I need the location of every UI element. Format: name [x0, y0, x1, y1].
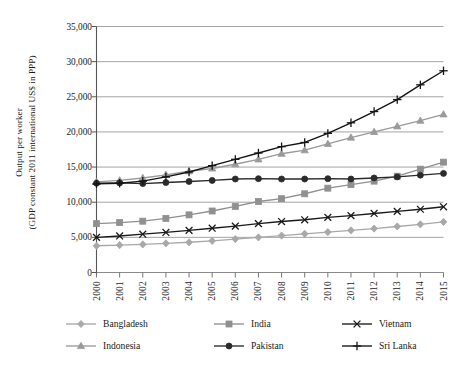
legend-item-bangladesh[interactable]: Bangladesh: [64, 316, 148, 332]
legend-key-square-icon: [212, 318, 246, 330]
marker-square: [140, 218, 146, 224]
series-vietnam: [93, 203, 447, 240]
marker-diamond: [417, 221, 424, 228]
marker-square: [325, 185, 331, 191]
marker-circle: [186, 178, 192, 184]
legend-label: Indonesia: [103, 340, 140, 352]
x-tick-label: 2015: [439, 281, 449, 301]
marker-square: [302, 191, 308, 197]
marker-diamond: [440, 218, 447, 225]
marker-circle: [348, 176, 354, 182]
x-tick-label: 2014: [415, 281, 425, 301]
marker-circle: [417, 172, 423, 178]
legend-key-diamond-icon: [64, 318, 98, 330]
series-line: [97, 173, 444, 183]
marker-circle: [302, 176, 308, 182]
chart-legend: BangladeshIndiaVietnamIndonesiaPakistanS…: [44, 316, 444, 362]
series-line: [97, 207, 444, 238]
marker-diamond: [78, 320, 85, 327]
marker-square: [186, 212, 192, 218]
marker-square: [226, 321, 232, 327]
marker-diamond: [324, 228, 331, 235]
legend-label: India: [251, 318, 271, 330]
marker-square: [163, 215, 169, 221]
marker-diamond: [348, 227, 355, 234]
x-tick-label: 2002: [138, 281, 148, 301]
marker-circle: [232, 176, 238, 182]
legend-label: Bangladesh: [103, 318, 148, 330]
x-tick-label: 2005: [207, 281, 217, 301]
legend-item-india[interactable]: India: [212, 316, 271, 332]
x-tick-label: 2001: [115, 281, 125, 301]
marker-diamond: [139, 241, 146, 248]
series-line: [97, 114, 444, 181]
marker-square: [348, 182, 354, 188]
marker-square: [117, 220, 123, 226]
x-tick-label: 2008: [277, 281, 287, 301]
marker-square: [94, 221, 100, 227]
x-tick-label: 2007: [253, 281, 263, 301]
marker-diamond: [116, 241, 123, 248]
marker-circle: [371, 175, 377, 181]
marker-diamond: [232, 236, 239, 243]
legend-key-plus-icon: [340, 340, 374, 352]
marker-circle: [226, 343, 232, 349]
marker-square: [279, 196, 285, 202]
marker-circle: [325, 176, 331, 182]
x-tick-label: 2003: [161, 281, 171, 301]
x-tick-label: 2013: [392, 281, 402, 301]
plot-area: [0, 0, 458, 367]
legend-label: Sri Lanka: [379, 340, 417, 352]
marker-square: [417, 166, 423, 172]
x-tick-label: 2010: [323, 281, 333, 301]
marker-square: [209, 208, 215, 214]
marker-diamond: [209, 237, 216, 244]
x-tick-label: 2006: [230, 281, 240, 301]
chart-figure: Output per worker (GDP constant 2011 int…: [0, 0, 458, 367]
series-pakistan: [94, 170, 447, 186]
legend-key-circle-icon: [212, 340, 246, 352]
marker-square: [441, 159, 447, 165]
legend-label: Pakistan: [251, 340, 284, 352]
legend-item-indonesia[interactable]: Indonesia: [64, 338, 140, 354]
x-tick-label: 2000: [92, 281, 102, 301]
marker-diamond: [301, 230, 308, 237]
marker-circle: [394, 174, 400, 180]
series-line: [97, 162, 444, 224]
marker-triangle: [440, 111, 447, 117]
legend-item-pakistan[interactable]: Pakistan: [212, 338, 284, 354]
marker-diamond: [255, 234, 262, 241]
marker-circle: [209, 177, 215, 183]
marker-diamond: [278, 232, 285, 239]
marker-square: [255, 199, 261, 205]
marker-circle: [441, 170, 447, 176]
marker-diamond: [394, 223, 401, 230]
legend-key-triangle-icon: [64, 340, 98, 352]
marker-diamond: [163, 240, 170, 247]
x-tick-label: 2009: [300, 281, 310, 301]
marker-circle: [279, 176, 285, 182]
series-india: [94, 159, 447, 227]
marker-diamond: [93, 242, 100, 249]
marker-circle: [255, 176, 261, 182]
legend-label: Vietnam: [379, 318, 411, 330]
x-tick-label: 2011: [346, 281, 356, 300]
legend-item-vietnam[interactable]: Vietnam: [340, 316, 411, 332]
x-tick-label: 2012: [369, 281, 379, 301]
marker-diamond: [186, 239, 193, 246]
legend-key-cross-icon: [340, 318, 374, 330]
x-tick-label: 2004: [184, 281, 194, 301]
marker-diamond: [371, 225, 378, 232]
marker-square: [232, 203, 238, 209]
legend-item-sri-lanka[interactable]: Sri Lanka: [340, 338, 417, 354]
